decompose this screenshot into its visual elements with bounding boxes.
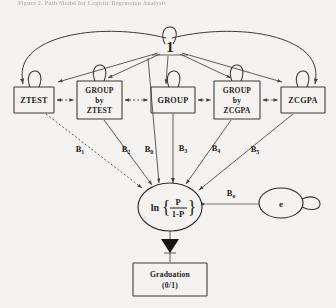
edge-one-to-group-ztest bbox=[108, 54, 160, 78]
group-by-zcgpa-line2: by bbox=[233, 96, 241, 105]
constant-to-predictor-edges bbox=[58, 53, 282, 84]
graduation-arrowhead bbox=[161, 239, 179, 253]
coefficient-b0: B0 bbox=[145, 145, 154, 155]
self-loop-group bbox=[167, 71, 179, 87]
figure-canvas: Figure 2. Path Model for Logistic Regres… bbox=[0, 0, 336, 308]
error-node-label: e bbox=[279, 199, 283, 209]
logit-node[interactable]: ln { P 1-P } bbox=[138, 183, 202, 231]
group-by-ztest-line3: ZTEST bbox=[87, 106, 112, 115]
constant-one-label: 1 bbox=[166, 39, 174, 55]
arc-one-to-zcgpa bbox=[172, 31, 316, 84]
predictor-box-group[interactable]: GROUP bbox=[151, 87, 195, 113]
group-by-zcgpa-line1: GROUP bbox=[223, 86, 252, 95]
coefficient-b5: B5 bbox=[251, 145, 260, 155]
group-by-zcgpa-line3: ZCGPA bbox=[223, 106, 250, 115]
outcome-box-graduation[interactable]: Graduation (0/1) bbox=[133, 263, 207, 296]
logit-ln-label: ln bbox=[151, 202, 160, 213]
self-loop-ztest bbox=[28, 71, 40, 87]
predictor-self-loops bbox=[28, 65, 308, 87]
self-loop-group-ztest bbox=[93, 65, 105, 81]
coefficient-b3: B3 bbox=[179, 144, 188, 154]
error-node[interactable]: e bbox=[259, 188, 320, 218]
self-loop-group-zcgpa bbox=[230, 65, 242, 81]
logit-denominator: 1-P bbox=[172, 209, 184, 219]
self-loop-zcgpa bbox=[296, 71, 308, 87]
logit-numerator: P bbox=[175, 197, 180, 207]
outcome-box-line1: Graduation bbox=[150, 270, 191, 279]
predictor-box-group-by-zcgpa[interactable]: GROUP by ZCGPA bbox=[214, 81, 260, 119]
predictor-box-zcgpa-label: ZCGPA bbox=[288, 96, 317, 105]
predictor-box-group-label: GROUP bbox=[158, 96, 189, 105]
outcome-box-rect[interactable] bbox=[133, 263, 207, 296]
coefficient-b2: B2 bbox=[122, 145, 131, 155]
edge-b4-groupzcgpa-to-logit bbox=[186, 120, 231, 184]
path-diagram-svg: 1 ZTEST GROUP by ZTEST bbox=[0, 0, 336, 308]
logit-to-outcome-connector bbox=[161, 231, 179, 262]
logit-open-brace: { bbox=[162, 197, 171, 217]
edge-one-to-group-zcgpa bbox=[180, 54, 231, 78]
path-edges-to-logit bbox=[46, 58, 293, 190]
constant-one-node: 1 bbox=[152, 27, 188, 55]
predictor-box-zcgpa[interactable]: ZCGPA bbox=[281, 87, 325, 113]
coefficient-b4: B4 bbox=[212, 144, 221, 154]
edge-b0-one-to-logit bbox=[148, 58, 159, 183]
error-node-self-loop bbox=[302, 197, 320, 210]
coefficient-b1: B1 bbox=[76, 145, 85, 155]
coefficient-be: Be bbox=[227, 189, 236, 199]
logit-close-brace: } bbox=[188, 197, 197, 217]
group-by-ztest-line2: by bbox=[95, 96, 103, 105]
predictor-box-ztest[interactable]: ZTEST bbox=[14, 87, 54, 113]
group-by-ztest-line1: GROUP bbox=[85, 86, 114, 95]
predictor-box-group-by-ztest[interactable]: GROUP by ZTEST bbox=[77, 81, 122, 119]
outcome-box-line2: (0/1) bbox=[162, 281, 178, 290]
predictor-box-ztest-label: ZTEST bbox=[20, 96, 48, 105]
